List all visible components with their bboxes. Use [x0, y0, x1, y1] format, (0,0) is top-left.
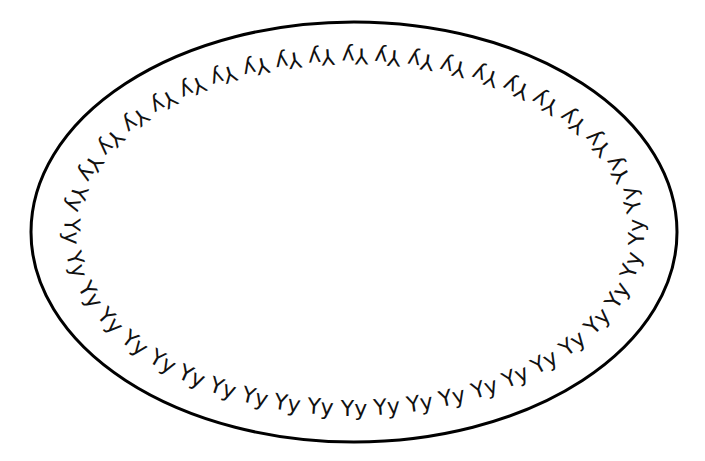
receptor-glyph: Yy [553, 325, 590, 362]
receptor-glyph: Yy [61, 182, 93, 216]
receptor-glyph: Yy [116, 324, 153, 361]
receptor-glyph: Yy [499, 71, 534, 105]
receptor-glyph: Yy [578, 303, 615, 340]
receptor-glyph: Yy [72, 276, 108, 312]
receptor-glyph: Yy [340, 396, 367, 421]
receptor-glyph: Yy [437, 52, 469, 83]
receptor-glyph: Yy [467, 372, 501, 404]
receptor-glyph: Yy [406, 47, 437, 76]
receptor-glyph: Yy [205, 371, 239, 403]
receptor-glyph: Yy [526, 344, 562, 379]
receptor-glyph: Yy [497, 360, 532, 394]
receptor-glyph: Yy [117, 102, 154, 139]
receptor-glyph: Yy [615, 183, 647, 216]
receptor-glyph: Yy [404, 389, 435, 418]
receptor-glyph: Yy [93, 124, 130, 161]
receptor-glyph: Yy [144, 343, 180, 378]
receptor-glyph: Yy [579, 125, 616, 162]
receptor-glyph: Yy [600, 151, 636, 187]
receptor-glyph: Yy [240, 52, 272, 83]
receptor-glyph: Yy [146, 84, 182, 119]
outer-ellipse-boundary [31, 22, 677, 442]
receptor-glyph: Yy [73, 150, 109, 187]
diagram-canvas: YyYyYyYyYyYyYyYyYyYyYyYyYyYyYyYyYyYyYyYy… [0, 0, 705, 461]
receptor-glyph: Yy [469, 60, 503, 92]
receptor-glyph: Yy [372, 393, 401, 420]
receptor-glyph: Yy [61, 247, 93, 280]
receptor-glyph-ring: YyYyYyYyYyYyYyYyYyYyYyYyYyYyYyYyYyYyYyYy… [59, 43, 648, 420]
receptor-glyph: Yy [305, 393, 334, 420]
receptor-glyph: Yy [307, 44, 336, 71]
receptor-glyph: Yy [174, 359, 209, 393]
receptor-glyph: Yy [92, 302, 129, 339]
receptor-glyph: Yy [59, 217, 84, 245]
receptor-glyph: Yy [555, 103, 592, 140]
receptor-glyph: Yy [342, 43, 370, 68]
receptor-glyph: Yy [373, 44, 402, 71]
receptor-glyph: Yy [624, 219, 649, 246]
receptor-glyph: Yy [615, 249, 647, 283]
receptor-glyph: Yy [599, 277, 635, 314]
receptor-glyph: Yy [271, 389, 302, 418]
receptor-glyph: Yy [527, 85, 563, 120]
receptor-glyph: Yy [435, 382, 467, 413]
receptor-glyph: Yy [175, 71, 210, 105]
receptor-glyph: Yy [238, 381, 270, 412]
receptor-glyph: Yy [207, 60, 241, 92]
receptor-glyph: Yy [273, 46, 304, 75]
